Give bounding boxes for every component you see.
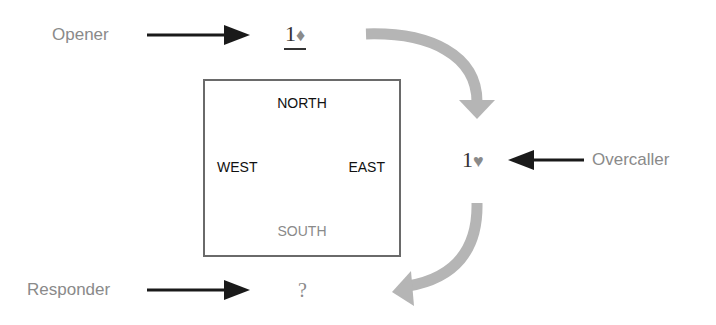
overcaller-bid-level: 1 (462, 147, 473, 172)
seat-south: SOUTH (205, 223, 399, 239)
seat-east: EAST (348, 159, 385, 175)
bridge-table: NORTH WEST EAST SOUTH (203, 79, 401, 257)
seat-north: NORTH (205, 95, 399, 111)
heart-icon: ♥ (473, 151, 484, 171)
opener-label: Opener (52, 25, 109, 45)
diamond-icon: ♦ (296, 25, 305, 45)
opener-pointer-arrow (147, 25, 250, 45)
opener-bid: 1♦ (284, 22, 306, 50)
responder-bid: ? (298, 278, 307, 302)
flow-arrow-overcaller-to-responder (392, 203, 477, 306)
opener-bid-level: 1 (285, 21, 296, 46)
overcaller-label: Overcaller (592, 150, 669, 170)
responder-pointer-arrow (147, 280, 250, 300)
overcaller-pointer-arrow (508, 150, 584, 170)
overcaller-bid: 1♥ (462, 148, 484, 173)
seat-west: WEST (217, 159, 257, 175)
responder-label: Responder (27, 280, 110, 300)
